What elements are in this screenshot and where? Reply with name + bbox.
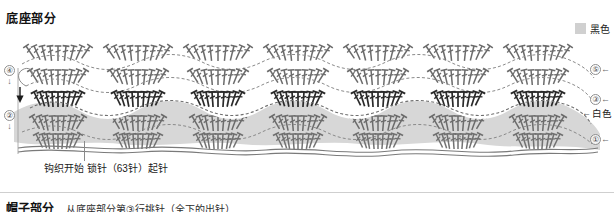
crochet-chart: ④ ↓ ② ↓ ⑤ ← ③ ← ① ← ← 白色 [0, 38, 614, 160]
row-arrow-3: ← [601, 95, 610, 104]
next-section-title: 帽子部分 [6, 199, 54, 212]
row-number-5: ⑤ [590, 64, 601, 75]
row-number-2: ② [4, 110, 15, 121]
caption-leader-line [84, 141, 85, 161]
color-swatch-icon [575, 23, 586, 34]
white-callout-label: 白色 [592, 106, 612, 120]
row-number-1: ① [590, 134, 601, 145]
row-arrow-1: ← [601, 135, 610, 144]
chart-row-5 [22, 44, 594, 78]
white-yarn-callout: ← 白色 [582, 106, 612, 120]
white-callout-arrow: ← [582, 108, 591, 118]
chart-row-4 [19, 68, 592, 100]
crochet-chart-svg [0, 38, 614, 160]
row-arrow-2: ↓ [7, 122, 12, 131]
row-number-4: ④ [4, 65, 15, 76]
row-marker-4: ④ ↓ [4, 65, 15, 86]
row-marker-5: ⑤ ← [590, 64, 610, 75]
foundation-caption: 钩织开始 锁针（63针）起针 [44, 160, 168, 175]
row-number-3: ③ [590, 94, 601, 105]
foundation-chain [18, 146, 598, 156]
page-title: 底座部分 [6, 9, 56, 26]
next-section-note: 从底座部分第③行挑针（全下的出针） [66, 201, 235, 212]
row-arrow-4: ↓ [7, 77, 12, 86]
legend: 黑色 [575, 21, 610, 36]
row-marker-3: ③ ← [590, 94, 610, 105]
legend-label-black: 黑色 [590, 21, 610, 36]
row-marker-1: ① ← [590, 134, 610, 145]
section-divider [0, 192, 614, 193]
row-arrow-5: ← [601, 65, 610, 74]
start-direction-arrow-icon [14, 87, 28, 103]
next-section-header: 帽子部分 从底座部分第③行挑针（全下的出针） [6, 199, 235, 212]
row-marker-2: ② ↓ [4, 110, 15, 131]
